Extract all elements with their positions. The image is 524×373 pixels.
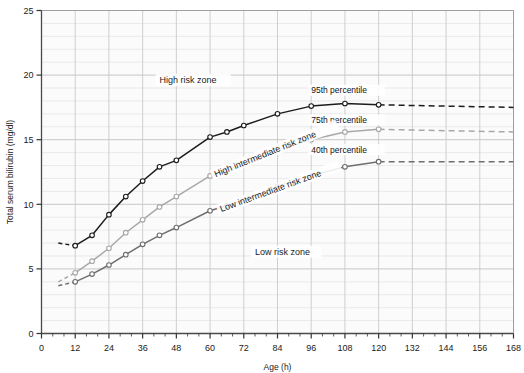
- chart-canvas: 0510152025012243648607284961081201321441…: [0, 0, 524, 373]
- series-marker: [174, 158, 179, 163]
- x-axis-tick-label: 72: [239, 343, 249, 353]
- x-axis-tick-label: 144: [439, 343, 454, 353]
- series-label-1: 75th percentile: [311, 115, 367, 125]
- series-marker: [343, 130, 348, 135]
- x-axis-tick-label: 24: [104, 343, 114, 353]
- bilirubin-nomogram-chart: 0510152025012243648607284961081201321441…: [0, 0, 524, 373]
- series-marker: [157, 205, 162, 210]
- series-marker: [225, 130, 230, 135]
- x-axis-tick-label: 84: [272, 343, 282, 353]
- series-marker: [123, 194, 128, 199]
- series-marker: [174, 225, 179, 230]
- x-axis-tick-label: 48: [171, 343, 181, 353]
- y-axis-tick-label: 0: [28, 329, 33, 339]
- series-label-2: 40th percentile: [311, 145, 367, 155]
- series-marker: [90, 272, 95, 277]
- series-marker: [107, 246, 112, 251]
- series-marker: [107, 212, 112, 217]
- series-marker: [376, 103, 381, 108]
- series-marker: [376, 159, 381, 164]
- series-marker: [107, 263, 112, 268]
- y-axis-tick-label: 20: [23, 70, 33, 80]
- series-marker: [157, 165, 162, 170]
- x-axis-tick-label: 168: [506, 343, 521, 353]
- series-marker: [275, 112, 280, 117]
- series-marker: [90, 233, 95, 238]
- x-axis-tick-label: 120: [371, 343, 386, 353]
- x-axis-title: Age (h): [264, 362, 292, 372]
- x-axis-tick-label: 60: [205, 343, 215, 353]
- series-marker: [123, 230, 128, 235]
- series-marker: [208, 208, 213, 213]
- series-marker: [309, 104, 314, 109]
- series-marker: [140, 242, 145, 247]
- x-axis-tick-label: 132: [405, 343, 420, 353]
- y-axis-title: Total serum bilirubin (mg/dl): [5, 120, 15, 225]
- series-marker: [174, 194, 179, 199]
- series-marker: [343, 101, 348, 106]
- series-label-0: 95th percentile: [311, 85, 367, 95]
- y-axis-tick-label: 25: [23, 6, 33, 16]
- series-marker: [140, 179, 145, 184]
- y-axis-tick-label: 5: [28, 264, 33, 274]
- x-axis-tick-label: 108: [337, 343, 352, 353]
- x-axis-tick-label: 0: [39, 343, 44, 353]
- series-marker: [241, 123, 246, 128]
- x-axis-tick-label: 96: [306, 343, 316, 353]
- high-risk-zone-label: High risk zone: [160, 75, 217, 85]
- series-marker: [140, 218, 145, 223]
- x-axis-tick-label: 12: [70, 343, 80, 353]
- x-axis-tick-label: 36: [138, 343, 148, 353]
- x-axis-tick-label: 156: [472, 343, 487, 353]
- y-axis-tick-label: 15: [23, 135, 33, 145]
- series-marker: [208, 135, 213, 140]
- series-marker: [123, 252, 128, 257]
- series-marker: [73, 280, 78, 285]
- y-axis-tick-label: 10: [23, 200, 33, 210]
- series-marker: [343, 165, 348, 170]
- series-marker: [376, 127, 381, 132]
- series-marker: [157, 233, 162, 238]
- low-risk-zone-label: Low risk zone: [255, 247, 310, 257]
- series-marker: [90, 259, 95, 264]
- series-marker: [73, 243, 78, 248]
- series-marker: [73, 270, 78, 275]
